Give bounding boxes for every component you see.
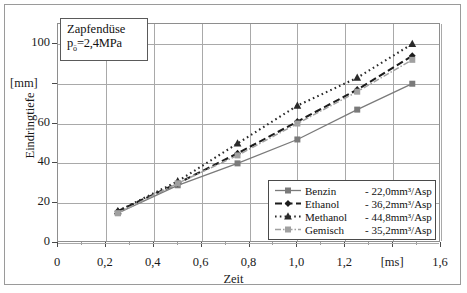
annotation-line-1: Zapfendüse: [67, 22, 142, 36]
legend-symbol-benzin: [273, 185, 303, 196]
data-point-marker: [354, 107, 360, 113]
legend-value: - 22,0mm³/Asp: [365, 185, 433, 197]
legend-label: Gemisch: [303, 224, 365, 236]
grid-line-horizontal: [58, 243, 439, 244]
legend-item[interactable]: Gemisch- 35,2mm³/Asp: [273, 223, 433, 236]
legend-item[interactable]: Ethanol- 36,2mm³/Asp: [273, 197, 433, 210]
x-axis-tick-label: 1,0: [274, 255, 318, 270]
legend-item[interactable]: Methanol- 44,8mm³/Asp: [273, 210, 433, 223]
grid-line-vertical: [441, 24, 442, 241]
data-point-marker: [353, 74, 361, 81]
annotation-pressure-value: =2,4MPa: [77, 36, 122, 50]
y-axis-tick-label: 60: [16, 116, 50, 128]
legend-symbol-ethanol: [273, 198, 303, 209]
x-axis-tick-label: 1,2: [322, 255, 366, 270]
x-axis-tick-label: 0,8: [227, 255, 271, 270]
legend-symbol-methanol: [273, 211, 303, 222]
x-axis-tick-label: 0,6: [179, 255, 223, 270]
x-axis-tick-label: 0: [35, 255, 79, 270]
data-point-marker: [115, 210, 121, 216]
data-point-marker: [408, 40, 416, 47]
data-point-marker: [175, 180, 181, 186]
annotation-line-2: pö=2,4MPa: [67, 36, 142, 56]
legend: Benzin- 22,0mm³/AspEthanol- 36,2mm³/AspM…: [268, 180, 436, 240]
data-point-marker: [294, 121, 300, 127]
legend-label: Ethanol: [303, 198, 365, 210]
y-axis-tick-label: 20: [16, 195, 50, 207]
x-axis-tick-label: 0,2: [83, 255, 127, 270]
data-point-marker: [285, 188, 291, 194]
y-axis-unit-label: [mm]: [10, 76, 38, 91]
data-point-marker: [409, 57, 415, 63]
data-point-marker: [285, 227, 291, 233]
data-point-marker: [354, 89, 360, 95]
legend-value: - 35,2mm³/Asp: [365, 224, 433, 236]
annotation-box: Zapfendüse pö=2,4MPa: [60, 18, 148, 61]
data-point-marker: [235, 160, 241, 166]
data-point-marker: [294, 136, 300, 142]
legend-label: Methanol: [303, 211, 365, 223]
x-axis-tick-label: [ms]: [370, 255, 414, 270]
y-axis-tick-label: 40: [16, 155, 50, 167]
legend-label: Benzin: [303, 185, 365, 197]
x-axis-tick-label: 0,4: [131, 255, 175, 270]
legend-symbol-gemisch: [273, 224, 303, 235]
chart-page: Eindringtiefe 0204060100 00,20,40,60,81,…: [0, 0, 467, 293]
x-axis-tick-label: 1,6: [418, 255, 462, 270]
data-point-marker: [409, 81, 415, 87]
x-axis-title: Zeit: [0, 272, 467, 287]
y-axis-tick-label: 100: [16, 36, 50, 48]
legend-value: - 36,2mm³/Asp: [365, 198, 433, 210]
legend-value: - 44,8mm³/Asp: [365, 211, 433, 223]
y-axis-tick-label: 0: [16, 235, 50, 247]
data-point-marker: [235, 152, 241, 158]
data-point-marker: [285, 200, 292, 207]
legend-item[interactable]: Benzin- 22,0mm³/Asp: [273, 184, 433, 197]
